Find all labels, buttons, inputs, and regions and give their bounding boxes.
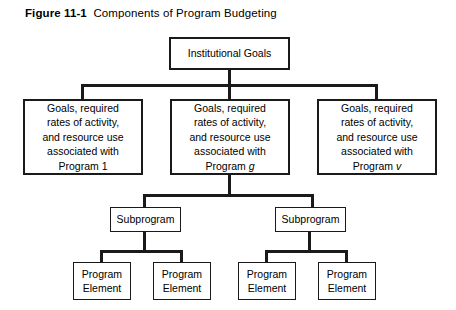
node-subprogram-left: Subprogram: [110, 207, 181, 232]
node-program-v: Goals, required rates of activity, and r…: [317, 99, 437, 175]
node-program-element-4-label: Program Element: [324, 267, 370, 296]
figure-number: Figure 11-1: [25, 7, 87, 19]
figure-caption: Components of Program Budgeting: [93, 7, 276, 19]
node-program-g-label: Goals, required rates of activity, and r…: [186, 101, 273, 174]
figure-title: Figure 11-1 Components of Program Budget…: [25, 6, 277, 20]
node-subprogram-right: Subprogram: [275, 207, 346, 232]
connector-subprogram-bus: [143, 194, 313, 197]
node-subprogram-left-label: Subprogram: [114, 212, 178, 227]
connector-subprogram-right-to-element-bus: [308, 230, 311, 252]
node-program-g: Goals, required rates of activity, and r…: [170, 99, 290, 175]
node-program-element-1: Program Element: [73, 262, 131, 300]
node-program-element-3: Program Element: [238, 262, 296, 300]
connector-element-bus-right: [265, 250, 348, 253]
node-program-element-2: Program Element: [153, 262, 211, 300]
node-institutional-goals: Institutional Goals: [169, 37, 290, 70]
connector-program-g-to-subprogram-bus: [228, 173, 231, 196]
connector-subprogram-left-to-element-bus: [143, 230, 146, 252]
node-program-1: Goals, required rates of activity, and r…: [23, 99, 143, 175]
node-subprogram-right-label: Subprogram: [279, 212, 343, 227]
node-program-element-3-label: Program Element: [244, 267, 290, 296]
connector-element-bus-left: [100, 250, 183, 253]
node-program-element-4: Program Element: [318, 262, 376, 300]
node-program-element-1-label: Program Element: [79, 267, 125, 296]
node-institutional-goals-label: Institutional Goals: [185, 46, 274, 61]
node-program-1-label: Goals, required rates of activity, and r…: [39, 101, 126, 174]
node-program-element-2-label: Program Element: [159, 267, 205, 296]
node-program-v-label: Goals, required rates of activity, and r…: [333, 101, 420, 174]
